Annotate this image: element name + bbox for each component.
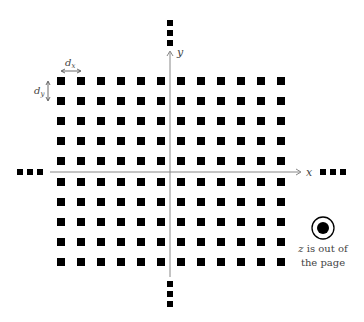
lattice-element xyxy=(97,97,105,105)
lattice-element xyxy=(277,258,285,266)
lattice-element xyxy=(117,238,125,246)
lattice-element xyxy=(197,238,205,246)
lattice-element xyxy=(257,77,265,85)
lattice-element xyxy=(197,137,205,145)
lattice-element xyxy=(197,77,205,85)
lattice-element xyxy=(137,157,145,165)
lattice-element xyxy=(117,77,125,85)
lattice-element xyxy=(257,157,265,165)
lattice-diagram: x y dx dy z is out of the page xyxy=(0,0,364,322)
lattice-element xyxy=(237,157,245,165)
lattice-element xyxy=(237,258,245,266)
lattice-element xyxy=(197,178,205,186)
x-axis-label: x xyxy=(306,166,313,179)
svg-text:dx: dx xyxy=(65,57,75,70)
lattice-element xyxy=(217,117,225,125)
lattice-element xyxy=(217,97,225,105)
lattice-element xyxy=(277,97,285,105)
lattice-element xyxy=(217,137,225,145)
lattice-element xyxy=(277,137,285,145)
continuation-dots-bottom xyxy=(167,281,173,307)
lattice-element xyxy=(197,117,205,125)
dx-subscript: x xyxy=(71,62,75,70)
lattice-element xyxy=(137,77,145,85)
lattice-element xyxy=(77,77,85,85)
lattice-element xyxy=(137,117,145,125)
lattice-element xyxy=(97,218,105,226)
lattice-element xyxy=(117,157,125,165)
lattice-element xyxy=(237,198,245,206)
lattice-element xyxy=(97,157,105,165)
lattice-element xyxy=(217,238,225,246)
lattice-element xyxy=(257,198,265,206)
lattice-element xyxy=(137,218,145,226)
lattice-element xyxy=(97,178,105,186)
lattice-element xyxy=(237,178,245,186)
lattice-element xyxy=(157,77,165,85)
lattice-element xyxy=(177,258,185,266)
lattice-element xyxy=(217,157,225,165)
lattice-element xyxy=(57,218,65,226)
y-axis-label: y xyxy=(176,46,184,59)
lattice-element xyxy=(77,117,85,125)
lattice-element xyxy=(77,218,85,226)
lattice-element xyxy=(197,157,205,165)
dx-spacing-marker: dx xyxy=(61,57,81,73)
lattice-element xyxy=(117,258,125,266)
lattice-element xyxy=(57,117,65,125)
lattice-element xyxy=(237,97,245,105)
lattice-element xyxy=(217,178,225,186)
lattice-element xyxy=(257,137,265,145)
z-note-line1: z is out of xyxy=(297,243,349,254)
lattice-element xyxy=(77,178,85,186)
lattice-element xyxy=(57,178,65,186)
lattice-element xyxy=(57,77,65,85)
lattice-element xyxy=(277,117,285,125)
lattice-element xyxy=(177,178,185,186)
lattice-element xyxy=(77,157,85,165)
lattice-element xyxy=(157,157,165,165)
lattice-element xyxy=(77,137,85,145)
lattice-element xyxy=(57,258,65,266)
lattice-element xyxy=(177,77,185,85)
lattice-element xyxy=(177,137,185,145)
lattice-element xyxy=(117,137,125,145)
lattice-element xyxy=(217,218,225,226)
lattice-element xyxy=(137,238,145,246)
lattice-element xyxy=(57,198,65,206)
lattice-element xyxy=(97,77,105,85)
lattice-element xyxy=(217,258,225,266)
lattice-element xyxy=(197,97,205,105)
lattice-element xyxy=(277,77,285,85)
lattice-element xyxy=(57,97,65,105)
lattice-element xyxy=(197,198,205,206)
lattice-element xyxy=(117,178,125,186)
lattice-element xyxy=(157,97,165,105)
lattice-element xyxy=(117,97,125,105)
lattice-element xyxy=(257,97,265,105)
lattice-element xyxy=(257,238,265,246)
lattice-element xyxy=(77,258,85,266)
lattice-element xyxy=(237,117,245,125)
lattice-element xyxy=(177,218,185,226)
dy-spacing-marker: dy xyxy=(34,81,50,101)
lattice-element xyxy=(137,137,145,145)
lattice-element xyxy=(157,117,165,125)
continuation-dots-left xyxy=(17,169,43,175)
out-of-page-icon xyxy=(312,217,334,239)
lattice-element xyxy=(217,198,225,206)
lattice-element xyxy=(97,198,105,206)
lattice-element xyxy=(137,97,145,105)
lattice-element xyxy=(177,117,185,125)
lattice-element xyxy=(97,137,105,145)
lattice-element xyxy=(97,238,105,246)
lattice-element xyxy=(277,198,285,206)
lattice-element xyxy=(257,258,265,266)
z-note-line2: the page xyxy=(301,257,345,268)
svg-text:dy: dy xyxy=(34,85,45,98)
lattice-element xyxy=(237,218,245,226)
lattice-element xyxy=(157,178,165,186)
lattice-element xyxy=(157,238,165,246)
lattice-element xyxy=(237,137,245,145)
lattice-element xyxy=(217,77,225,85)
